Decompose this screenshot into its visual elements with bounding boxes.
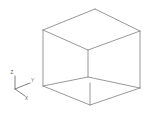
axis-triad-lines	[15, 76, 30, 96]
axis-label-x: X	[25, 96, 28, 101]
viewport-canvas[interactable]: Z Y X	[0, 0, 159, 122]
axis-label-z: Z	[11, 70, 14, 75]
axis-line-x	[15, 89, 25, 96]
axis-triad: Z Y X	[0, 0, 159, 122]
axis-label-y: Y	[31, 78, 34, 83]
axis-line-y	[15, 83, 30, 89]
